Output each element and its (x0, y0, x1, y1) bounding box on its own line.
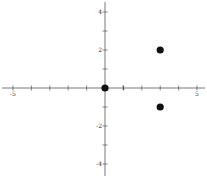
y-tick-label: -4 (96, 160, 102, 167)
y-tick-label: 2 (98, 46, 102, 53)
data-point (157, 103, 164, 110)
data-point (157, 46, 164, 53)
data-points (101, 46, 163, 110)
data-point (101, 84, 108, 91)
x-tick-label: -5 (10, 90, 16, 97)
x-tick-label: 5 (195, 90, 199, 97)
coordinate-plane: -51542-2-4 (0, 0, 207, 177)
y-tick-label: 4 (98, 8, 102, 15)
x-tick-label: 1 (121, 84, 125, 91)
y-tick-label: -2 (96, 122, 102, 129)
